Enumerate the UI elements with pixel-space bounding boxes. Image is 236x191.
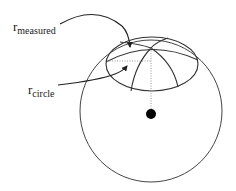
sphere-center-dot xyxy=(146,109,156,119)
label-r-circle-sub: circle xyxy=(32,88,54,99)
label-r-measured-sub: measured xyxy=(17,25,55,36)
arrow-measured xyxy=(60,14,130,47)
label-r-measured: rmeasured xyxy=(13,20,56,33)
cap-meridian-left xyxy=(131,38,168,91)
arrow-circle xyxy=(58,66,127,85)
cap-horizon-arc xyxy=(106,49,198,62)
cap-meridian-right xyxy=(120,42,178,87)
cap-rim-ellipse xyxy=(106,37,198,91)
label-r-circle: rcircle xyxy=(28,83,55,96)
